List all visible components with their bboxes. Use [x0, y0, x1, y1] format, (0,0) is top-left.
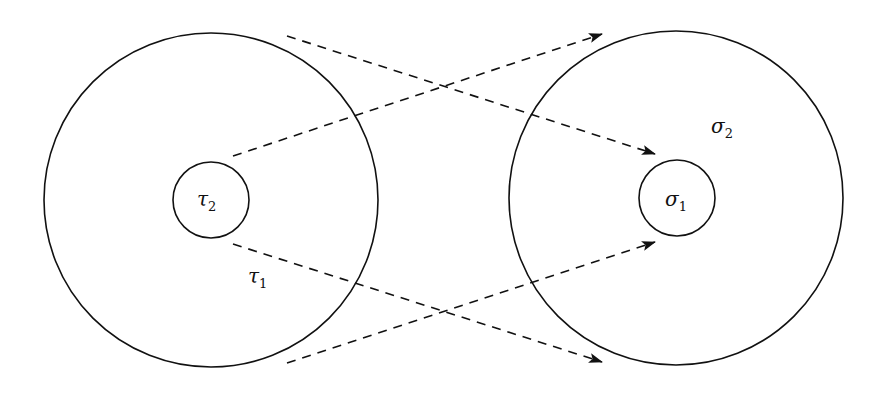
sigma2-label: σ2 — [711, 114, 733, 141]
tau2-label: τ2 — [197, 187, 216, 214]
diagram-canvas: τ1 τ2 σ2 σ1 — [0, 0, 883, 395]
mapping-arrows — [233, 34, 655, 363]
right-domain: σ2 σ1 — [509, 31, 843, 365]
tau1-label: τ1 — [248, 264, 267, 291]
left-domain: τ1 τ2 — [44, 33, 378, 367]
sigma1-label: σ1 — [665, 187, 687, 214]
dashed-arrow-outer-left-top-to-inner-right — [287, 36, 655, 154]
